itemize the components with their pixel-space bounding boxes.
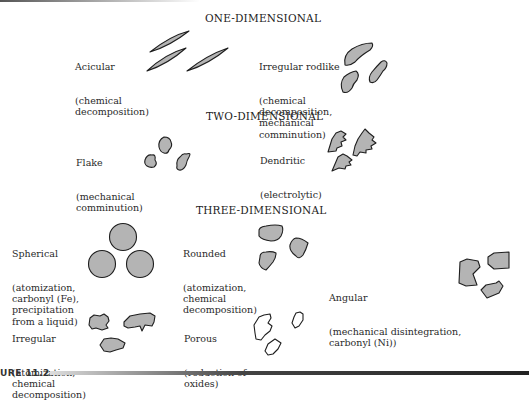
- flake-particles: [145, 137, 190, 170]
- angular-particles: [459, 252, 509, 298]
- irregular-rodlike-particles: [341, 43, 387, 93]
- figure-caption: URE 11.2: [0, 368, 50, 378]
- dendritic-particles: [328, 129, 376, 171]
- rounded-particles: [259, 225, 308, 270]
- acicular-particles: [147, 31, 228, 71]
- bottom-rule: [50, 371, 529, 375]
- irregular-particles: [89, 313, 155, 352]
- spherical-particles: [89, 224, 154, 278]
- porous-particles: [254, 312, 303, 355]
